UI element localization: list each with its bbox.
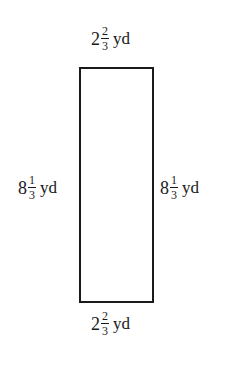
right-side-label: 8 1 3 yd [160,174,199,201]
fraction: 2 3 [101,25,109,52]
numerator: 1 [170,174,178,188]
whole-number: 2 [91,30,100,48]
numerator: 2 [101,310,109,324]
numerator: 2 [101,25,109,39]
top-side-label: 2 2 3 yd [91,25,130,52]
unit: yd [182,179,199,196]
left-side-label: 8 1 3 yd [18,174,57,201]
whole-number: 8 [160,179,169,197]
denominator: 3 [29,188,35,201]
rectangle-shape [79,67,154,303]
fraction: 1 3 [170,174,178,201]
denominator: 3 [102,324,108,337]
fraction: 1 3 [28,174,36,201]
unit: yd [113,315,130,332]
unit: yd [113,30,130,47]
denominator: 3 [171,188,177,201]
numerator: 1 [28,174,36,188]
unit: yd [40,179,57,196]
fraction: 2 3 [101,310,109,337]
whole-number: 2 [91,315,100,333]
denominator: 3 [102,39,108,52]
whole-number: 8 [18,179,27,197]
bottom-side-label: 2 2 3 yd [91,310,130,337]
